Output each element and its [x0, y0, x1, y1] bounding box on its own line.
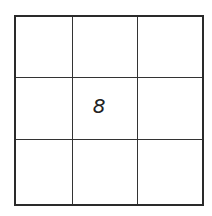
grid-cell-r1-c3 — [138, 17, 202, 78]
three-by-three-grid: 8 — [14, 15, 204, 206]
grid-cell-r2-c1 — [16, 78, 73, 140]
grid-cell-r3-c2 — [73, 140, 138, 204]
grid-cell-r1-c2 — [73, 17, 138, 78]
grid-cell-r2-c3 — [138, 78, 202, 140]
grid-cell-r3-c1 — [16, 140, 73, 204]
cell-value: 8 — [93, 94, 106, 118]
grid-cell-r1-c1 — [16, 17, 73, 78]
grid-cell-r2-c2: 8 — [73, 78, 138, 140]
grid-cell-r3-c3 — [138, 140, 202, 204]
